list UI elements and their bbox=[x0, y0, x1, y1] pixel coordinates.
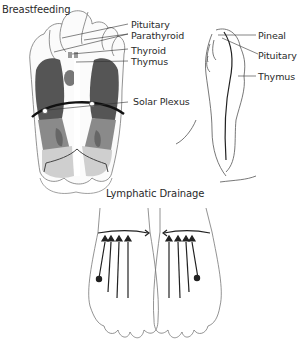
label-thymus: Thymus bbox=[131, 57, 168, 67]
label-parathyroid: Parathyroid bbox=[131, 31, 184, 41]
lymph-arrows bbox=[96, 230, 210, 298]
label-pineal: Pineal bbox=[258, 31, 286, 41]
breastfeeding-title: Breastfeeding bbox=[2, 5, 71, 15]
sole-organs bbox=[32, 52, 124, 178]
side-leader-lines bbox=[218, 35, 258, 76]
label-side-thymus: Thymus bbox=[258, 72, 295, 82]
label-solar-plexus: Solar Plexus bbox=[133, 97, 190, 107]
lymphatic-title: Lymphatic Drainage bbox=[106, 189, 204, 199]
label-thyroid: Thyroid bbox=[131, 46, 166, 56]
label-side-pituitary: Pituitary bbox=[258, 51, 297, 61]
label-pituitary: Pituitary bbox=[131, 20, 170, 30]
